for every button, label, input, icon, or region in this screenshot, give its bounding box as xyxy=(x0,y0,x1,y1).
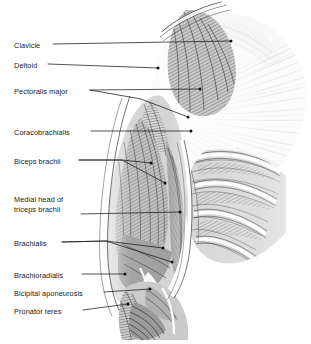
pectoralis-major-leader-b-endpoint xyxy=(187,116,190,119)
label-biceps-brachii-line1: Biceps brachii xyxy=(14,157,61,167)
label-clavicle: Clavicle xyxy=(14,41,40,51)
brachialis-leader-b-endpoint xyxy=(171,261,174,264)
label-deltoid-line1: Deltoid xyxy=(14,61,37,71)
label-brachialis-line1: Brachialis xyxy=(14,239,47,249)
deltoid-leader xyxy=(48,64,158,68)
label-pronator-teres-line1: Pronator teres xyxy=(14,307,62,317)
label-pectoralis-major-line1: Pectoralis major xyxy=(14,87,68,97)
pronator-teres-leader-endpoint xyxy=(127,303,130,306)
label-triceps-brachii-line2: triceps brachii xyxy=(14,205,63,215)
biceps-brachii-leader-b-endpoint xyxy=(164,182,167,185)
label-pectoralis-major: Pectoralis major xyxy=(14,87,68,97)
label-coracobrachialis-line1: Coracobrachialis xyxy=(14,128,70,138)
label-brachioradialis-line1: Brachioradialis xyxy=(14,271,63,281)
label-triceps-brachii: Medial head oftriceps brachii xyxy=(14,195,63,214)
label-pronator-teres: Pronator teres xyxy=(14,307,62,317)
pectoralis-major-leader-a-endpoint xyxy=(199,88,202,91)
coracobrachialis-leader-endpoint xyxy=(190,130,193,133)
label-clavicle-line1: Clavicle xyxy=(14,41,40,51)
bicipital-aponeurosis-leader-endpoint xyxy=(149,288,152,291)
label-brachialis: Brachialis xyxy=(14,239,47,249)
label-deltoid: Deltoid xyxy=(14,61,37,71)
brachioradialis-leader-endpoint xyxy=(124,273,127,276)
biceps-brachii-leader-a-endpoint xyxy=(150,162,153,165)
rib-cage xyxy=(182,140,302,272)
brachialis-leader-a-endpoint xyxy=(162,247,165,250)
clavicle-leader-endpoint xyxy=(230,40,233,43)
label-triceps-brachii-line1: Medial head of xyxy=(14,195,63,205)
label-bicipital-aponeurosis-line1: Bicipital aponeurosis xyxy=(14,289,83,299)
label-biceps-brachii: Biceps brachii xyxy=(14,157,61,167)
label-brachioradialis: Brachioradialis xyxy=(14,271,63,281)
deltoid-leader-endpoint xyxy=(157,67,160,70)
anatomy-figure: ClavicleDeltoidPectoralis majorCoracobra… xyxy=(0,0,311,344)
label-bicipital-aponeurosis: Bicipital aponeurosis xyxy=(14,289,83,299)
triceps-brachii-leader-endpoint xyxy=(179,211,182,214)
label-coracobrachialis: Coracobrachialis xyxy=(14,128,70,138)
